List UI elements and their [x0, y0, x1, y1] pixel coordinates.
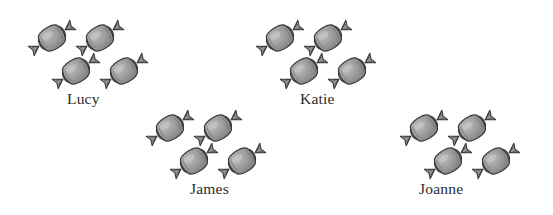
group-label-joanne: Joanne — [419, 180, 463, 198]
worksheet-canvas: Lucy Katie James — [0, 0, 553, 215]
group-label-james: James — [190, 180, 229, 198]
wrapped-candy-icon — [98, 45, 150, 97]
wrapped-candy-icon — [470, 135, 522, 187]
group-label-lucy: Lucy — [67, 90, 100, 108]
group-label-katie: Katie — [300, 90, 335, 108]
